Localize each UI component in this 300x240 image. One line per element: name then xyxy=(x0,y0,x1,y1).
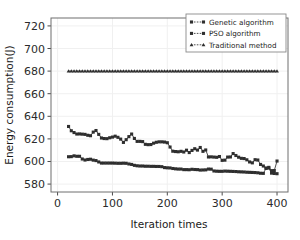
data-point-marker xyxy=(81,133,84,136)
data-point-marker xyxy=(267,166,270,169)
data-point-marker xyxy=(210,168,213,171)
data-point-marker xyxy=(100,136,103,139)
data-point-marker xyxy=(103,162,106,165)
data-point-marker xyxy=(185,168,188,171)
data-point-marker xyxy=(190,149,193,152)
data-point-marker xyxy=(215,170,218,173)
data-point-marker xyxy=(243,170,246,173)
chart-canvas: 5806006206406606807007200100200300400 It… xyxy=(0,0,300,240)
data-point-marker xyxy=(168,166,171,169)
y-tick-label: 700 xyxy=(24,43,45,56)
data-point-marker xyxy=(125,162,128,165)
data-point-marker xyxy=(174,150,177,153)
data-point-marker xyxy=(254,158,257,161)
data-point-marker xyxy=(234,154,237,157)
data-point-marker xyxy=(188,168,191,171)
data-point-marker xyxy=(212,156,215,159)
data-point-marker xyxy=(144,143,147,146)
data-point-marker xyxy=(273,172,276,175)
data-point-marker xyxy=(221,159,224,162)
data-point-marker xyxy=(207,155,210,158)
data-point-marker xyxy=(240,157,243,160)
data-point-marker xyxy=(160,140,163,143)
data-point-marker xyxy=(75,132,78,135)
data-point-marker xyxy=(199,169,202,172)
data-point-marker xyxy=(262,172,265,175)
data-point-marker xyxy=(127,162,130,165)
x-tick-label: 0 xyxy=(54,197,61,210)
data-point-marker xyxy=(114,135,117,138)
data-point-marker xyxy=(232,152,235,155)
data-point-marker xyxy=(67,125,70,128)
data-point-marker xyxy=(168,145,171,148)
data-point-marker xyxy=(229,155,232,158)
data-point-marker xyxy=(75,155,78,158)
data-point-marker xyxy=(174,167,177,170)
data-point-marker xyxy=(158,165,161,168)
data-point-marker xyxy=(86,158,89,161)
data-point-marker xyxy=(138,140,141,143)
data-point-marker xyxy=(141,140,144,143)
data-point-marker xyxy=(138,164,141,167)
data-point-marker xyxy=(182,150,185,153)
data-point-marker xyxy=(130,163,133,166)
data-point-marker xyxy=(89,134,92,137)
data-point-marker xyxy=(182,168,185,171)
data-point-marker xyxy=(70,129,73,132)
data-point-marker xyxy=(125,138,128,141)
data-point-marker xyxy=(218,155,221,158)
data-point-marker xyxy=(166,166,169,169)
data-point-marker xyxy=(202,20,205,23)
data-point-marker xyxy=(111,136,114,139)
data-point-marker xyxy=(226,170,229,173)
data-point-marker xyxy=(243,157,246,160)
data-point-marker xyxy=(158,140,161,143)
data-point-marker xyxy=(144,165,147,168)
data-point-marker xyxy=(136,140,139,143)
data-point-marker xyxy=(133,137,136,140)
data-point-marker xyxy=(149,165,152,168)
legend-label: Genetic algorithm xyxy=(209,18,274,27)
data-point-marker xyxy=(97,133,100,136)
data-point-marker xyxy=(89,158,92,161)
data-point-marker xyxy=(147,165,150,168)
data-point-marker xyxy=(201,168,204,171)
data-point-marker xyxy=(83,133,86,136)
data-point-marker xyxy=(245,171,248,174)
data-point-marker xyxy=(196,168,199,171)
data-point-marker xyxy=(218,170,221,173)
data-point-marker xyxy=(141,164,144,167)
legend-label: PSO algorithm xyxy=(209,29,261,38)
chart-legend[interactable]: Genetic algorithmPSO algorithmTraditiona… xyxy=(186,14,286,52)
data-point-marker xyxy=(163,166,166,169)
data-point-marker xyxy=(78,155,81,158)
data-point-marker xyxy=(215,156,218,159)
data-point-marker xyxy=(97,160,100,163)
data-point-marker xyxy=(245,158,248,161)
data-point-marker xyxy=(147,143,150,146)
data-point-marker xyxy=(226,156,229,159)
data-point-marker xyxy=(270,169,273,172)
data-point-marker xyxy=(179,168,182,171)
data-point-marker xyxy=(237,170,240,173)
data-point-marker xyxy=(204,168,207,171)
data-point-marker xyxy=(232,170,235,173)
data-point-marker xyxy=(108,136,111,139)
data-point-marker xyxy=(119,138,122,141)
data-point-marker xyxy=(160,165,163,168)
data-point-marker xyxy=(251,171,254,174)
data-point-marker xyxy=(105,162,108,165)
data-point-marker xyxy=(262,164,265,167)
y-tick-label: 620 xyxy=(24,133,45,146)
data-point-marker xyxy=(201,150,204,153)
data-point-marker xyxy=(259,163,262,166)
data-point-marker xyxy=(223,159,226,162)
data-point-marker xyxy=(72,131,75,134)
data-point-marker xyxy=(171,167,174,170)
data-point-marker xyxy=(199,146,202,149)
data-point-marker xyxy=(155,165,158,168)
data-point-marker xyxy=(92,131,95,134)
data-point-marker xyxy=(171,150,174,153)
data-point-marker xyxy=(234,170,237,173)
data-point-marker xyxy=(136,164,139,167)
